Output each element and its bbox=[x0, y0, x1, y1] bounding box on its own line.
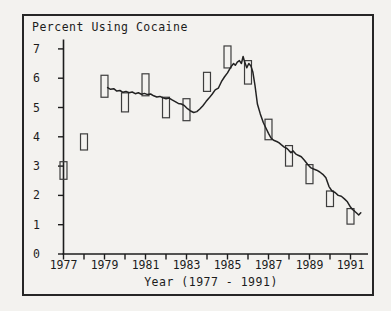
x-axis-label: Year (1977 - 1991) bbox=[144, 275, 278, 289]
scanned-chart-page: 0123456719771979198119831985198719891991… bbox=[0, 0, 391, 311]
chart-frame bbox=[22, 14, 374, 296]
chart-title: Percent Using Cocaine bbox=[32, 20, 188, 34]
